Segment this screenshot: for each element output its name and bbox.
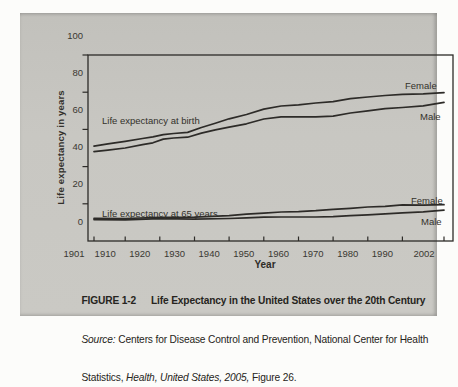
figure-caption: FIGURE 1-2Life Expectancy in the United … [60,282,452,387]
y-tick-label: 60 [53,104,83,115]
x-tick-label: 1970 [297,248,329,259]
x-tick-label: 1920 [124,248,156,259]
x-tick-label: 1980 [332,248,364,259]
y-tick-label: 100 [53,30,83,41]
source-book-title: Health, United States, 2005, [126,372,249,383]
x-tick-label: 1910 [89,248,121,259]
caption-title: Life Expectancy in the United States ove… [151,295,425,306]
source-text-1: Centers for Disease Control and Preventi… [116,334,429,345]
series-label-female-at-birth: Female [405,80,437,91]
source-text-3: Figure 26. [249,372,296,383]
caption-figure-number: FIGURE 1-2 [81,295,136,306]
y-tick-label: 80 [53,67,83,78]
x-tick-label: 1940 [193,248,225,259]
caption-source-line-2: Statistics, Health, United States, 2005,… [60,359,452,387]
x-tick-label: 1930 [158,248,190,259]
figure-panel: Life expectancy in years Year 0204060801… [20,13,437,316]
series-label-male-at-65: Male [421,216,442,227]
source-word: Source: [81,334,115,345]
x-tick-label: 1990 [366,248,398,259]
x-axis-label: Year [245,259,285,270]
caption-title-line: FIGURE 1-2Life Expectancy in the United … [60,282,452,321]
series-label-male-at-birth: Male [420,111,441,122]
caption-source-line-1: Source: Centers for Disease Control and … [60,321,452,360]
annotation-at65-group: Life expectancy at 65 years [102,208,218,219]
source-text-2: Statistics, [81,372,126,383]
x-tick-label: 1960 [262,248,294,259]
x-tick-label: 2002 [408,248,440,259]
x-tick-label: 1901 [58,248,90,259]
y-tick-label: 40 [53,141,83,152]
y-tick-label: 20 [53,178,83,189]
series-label-female-at-65: Female [411,195,443,206]
series-line-1 [94,102,444,151]
x-tick-label: 1950 [228,248,260,259]
annotation-birth-group: Life expectancy at birth [102,115,200,126]
y-tick-label: 0 [53,216,83,227]
